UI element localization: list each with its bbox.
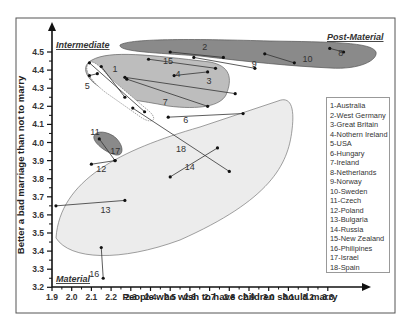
point-label: 11	[90, 127, 99, 137]
data-point-start	[167, 116, 170, 119]
y-tick-label: 4.0	[32, 138, 44, 148]
y-tick-label: 4.4	[32, 65, 44, 75]
legend: 1-Australia2-West Germany3-Great Britain…	[326, 97, 390, 273]
region-label-intermediate: Intermediate	[56, 40, 110, 50]
point-label: 17	[110, 146, 120, 156]
data-point-end	[241, 112, 244, 115]
data-point-start	[131, 107, 134, 110]
y-tick-label: 3.9	[32, 156, 44, 166]
legend-item: 18-Spain	[330, 263, 389, 273]
data-point-start	[88, 61, 91, 64]
legend-item: 16-Philipines	[330, 244, 389, 254]
x-tick-label: 2.2	[105, 292, 117, 302]
legend-item: 7-Ireland	[330, 158, 389, 168]
region-label-material: Material	[56, 274, 91, 284]
data-point-end	[222, 56, 225, 59]
data-point-start	[88, 74, 91, 77]
y-tick-label: 4.3	[32, 83, 44, 93]
data-point-end	[214, 67, 217, 70]
data-point-end	[234, 92, 237, 95]
data-point-start	[98, 137, 101, 140]
point-label: 14	[185, 162, 195, 172]
data-point-end	[206, 70, 209, 73]
point-label: 3	[206, 76, 211, 86]
data-point-start	[192, 56, 195, 59]
data-point-start	[263, 52, 266, 55]
y-tick-label: 3.2	[32, 282, 44, 292]
y-tick-label: 3.4	[32, 246, 44, 256]
legend-item: 5-USA	[330, 139, 389, 149]
point-label: 1	[113, 64, 118, 74]
x-tick-label: 2.1	[85, 292, 97, 302]
point-label: 7	[163, 97, 168, 107]
y-tick-label: 3.8	[32, 174, 44, 184]
data-point-start	[100, 246, 103, 249]
data-point-end	[96, 72, 99, 75]
point-label: 8	[338, 48, 343, 58]
data-point-start	[147, 58, 150, 61]
point-label: 18	[176, 144, 186, 154]
legend-item: 1-Australia	[330, 101, 389, 111]
point-label: 9	[252, 59, 257, 69]
legend-item: 6-Hungary	[330, 149, 389, 159]
point-label: 13	[100, 205, 110, 215]
y-axis-label: Better a bad marriage than not to marry	[15, 75, 26, 254]
data-point-end	[206, 105, 209, 108]
x-tick-label: 1.9	[46, 292, 58, 302]
data-point-start	[169, 175, 172, 178]
data-point-end	[143, 110, 146, 113]
data-point-start	[54, 204, 57, 207]
legend-item: 2-West Germany	[330, 111, 389, 121]
data-point-end	[293, 61, 296, 64]
legend-item: 13-Bulgaria	[330, 215, 389, 225]
legend-item: 17-Israel	[330, 253, 389, 263]
data-point-start	[328, 47, 331, 50]
data-point-start	[100, 65, 103, 68]
y-tick-label: 3.3	[32, 264, 44, 274]
y-tick-label: 3.7	[32, 192, 44, 202]
y-tick-label: 4.2	[32, 101, 44, 111]
point-label: 4	[176, 69, 181, 79]
y-tick-label: 3.6	[32, 210, 44, 220]
data-point-start	[169, 50, 172, 53]
point-label: 6	[183, 115, 188, 125]
point-label: 10	[303, 54, 313, 64]
legend-item: 8-Netherlands	[330, 168, 389, 178]
data-point-end	[123, 199, 126, 202]
data-point-end	[102, 277, 105, 280]
x-axis-label: People who wish to have children should …	[123, 291, 339, 302]
x-tick-label: 2.0	[66, 292, 78, 302]
data-point-start	[125, 78, 128, 81]
legend-item: 12-Poland	[330, 206, 389, 216]
y-tick-label: 3.5	[32, 228, 44, 238]
legend-item: 11-Czech	[330, 196, 389, 206]
legend-item: 10-Sweden	[330, 187, 389, 197]
data-point-end	[216, 146, 219, 149]
legend-item: 3-Great Britain	[330, 120, 389, 130]
y-tick-label: 4.5	[32, 47, 44, 57]
legend-item: 9-Norway	[330, 177, 389, 187]
y-tick-label: 4.1	[32, 119, 44, 129]
region-label-post-material: Post-Material	[327, 32, 384, 42]
legend-item: 15-New Zealand	[330, 234, 389, 244]
data-point-end	[228, 170, 231, 173]
legend-item: 4-Nothern Ireland	[330, 130, 389, 140]
data-point-end	[123, 96, 126, 99]
data-point-end	[113, 159, 116, 162]
point-label: 5	[85, 81, 90, 91]
data-point-start	[90, 163, 93, 166]
point-label: 15	[163, 56, 173, 66]
point-label: 16	[89, 269, 99, 279]
point-label: 2	[202, 42, 207, 52]
legend-item: 14-Russia	[330, 225, 389, 235]
point-label: 12	[96, 164, 106, 174]
